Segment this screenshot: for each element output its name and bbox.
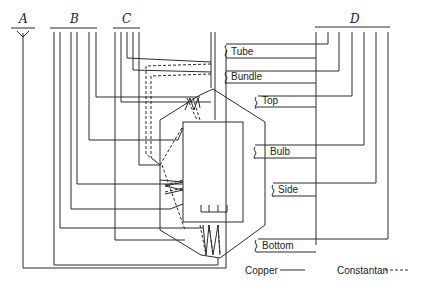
inner-bulb (183, 122, 243, 222)
svg-text:Tube: Tube (231, 46, 254, 57)
junction-bottom: Bottom (255, 240, 316, 252)
junction-top: Top (255, 95, 316, 109)
wiring-diagram: A B C D (0, 0, 421, 288)
legend-copper-label: Copper (245, 265, 278, 276)
svg-text:Side: Side (278, 184, 298, 195)
junction-side: Side (272, 184, 316, 197)
legend-constantan-label: Constantan (337, 265, 388, 276)
svg-text:Bulb: Bulb (270, 146, 290, 157)
legend: Copper Constantan (245, 265, 410, 276)
junction-tube: Tube (225, 45, 316, 58)
junction-bundle: Bundle (225, 71, 316, 84)
svg-text:Bottom: Bottom (262, 240, 294, 251)
group-label-b: B (69, 12, 79, 26)
junction-bulb: Bulb (254, 146, 316, 159)
group-label-a: A (18, 12, 28, 26)
group-label-d: D (349, 12, 360, 26)
svg-text:Bundle: Bundle (231, 71, 263, 82)
svg-text:Top: Top (262, 95, 279, 106)
outer-vessel (160, 89, 265, 258)
antenna-icon (17, 31, 29, 268)
group-label-c: C (122, 12, 131, 26)
